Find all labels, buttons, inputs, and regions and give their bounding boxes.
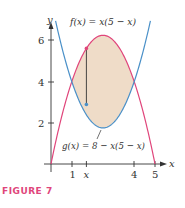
g-label-leader bbox=[97, 130, 101, 139]
y-axis-label: y bbox=[46, 14, 53, 25]
shaded-region bbox=[72, 35, 134, 128]
x-axis-arrow-icon bbox=[160, 162, 167, 167]
x-axis-label: x bbox=[169, 158, 175, 169]
figure-caption: FIGURE 7 bbox=[2, 186, 53, 196]
xtick-1: 1 bbox=[70, 169, 76, 180]
figure-7-graph: y x 6 4 2 1 x 4 5 f(x) = x(5 − x) g(x) =… bbox=[0, 0, 185, 208]
ytick-4: 4 bbox=[38, 77, 44, 88]
g-point-marker bbox=[85, 103, 89, 107]
xtick-x: x bbox=[84, 169, 90, 180]
f-label: f(x) = x(5 − x) bbox=[69, 16, 136, 27]
f-point-marker bbox=[85, 47, 89, 51]
g-label: g(x) = 8 − x(5 − x) bbox=[62, 140, 145, 151]
ytick-6: 6 bbox=[38, 35, 44, 46]
xtick-5: 5 bbox=[152, 169, 158, 180]
ytick-2: 2 bbox=[38, 118, 44, 129]
xtick-4: 4 bbox=[131, 169, 137, 180]
